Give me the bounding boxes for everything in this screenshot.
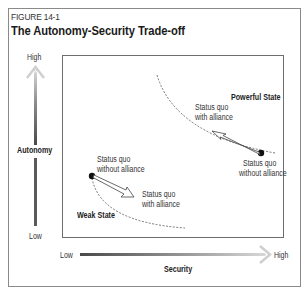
powerful-state-with-alliance-line1: Status quo — [195, 102, 228, 112]
security-axis-arrow — [80, 246, 270, 263]
weak-state-with-alliance-line1: Status quo — [142, 189, 175, 199]
powerful-state-without-alliance-line1: Status quo — [243, 158, 276, 168]
weak-state-title: Weak State — [77, 210, 115, 220]
weak-state-shift-arrow — [93, 175, 134, 197]
weak-state-without-alliance-line1: Status quo — [97, 154, 130, 164]
powerful-state-without-alliance-line2: without alliance — [239, 168, 287, 178]
powerful-state-title: Powerful State — [231, 92, 281, 102]
x-axis-title: Security — [164, 264, 192, 274]
y-axis-title: Autonomy — [17, 145, 52, 155]
x-axis-low-label: Low — [60, 250, 73, 260]
y-axis-low-label: Low — [29, 231, 42, 241]
weak-state-with-alliance-line2: with alliance — [142, 199, 180, 209]
weak-state-without-alliance-line2: without alliance — [97, 164, 145, 174]
powerful-state-shift-arrow — [212, 131, 260, 155]
y-axis-high-label: High — [27, 52, 41, 62]
powerful-state-with-alliance-line2: with alliance — [195, 112, 233, 122]
x-axis-high-label: High — [274, 250, 288, 260]
